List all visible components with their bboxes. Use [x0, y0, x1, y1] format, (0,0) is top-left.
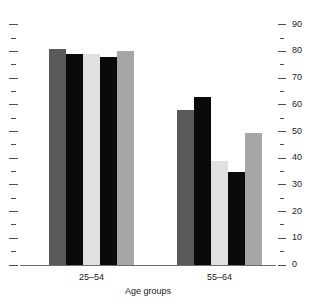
right-tick-minor-25 [280, 198, 284, 199]
bar-5564-series-2 [194, 97, 211, 265]
left-tick-minor-65 [11, 91, 16, 92]
y-tick-label-20: 20 [292, 207, 302, 216]
left-tick-minor-75 [11, 64, 16, 65]
right-tick-major-50 [278, 131, 286, 132]
right-tick-major-40 [278, 158, 286, 159]
right-tick-minor-85 [280, 38, 284, 39]
right-tick-major-20 [278, 211, 286, 212]
right-tick-major-10 [278, 238, 286, 239]
right-tick-minor-45 [280, 144, 284, 145]
left-tick-minor-45 [11, 144, 16, 145]
y-tick-label-80: 80 [292, 46, 302, 55]
right-tick-minor-15 [280, 224, 284, 225]
left-tick-major-20 [9, 211, 18, 212]
right-tick-major-0 [278, 265, 286, 266]
y-tick-label-30: 30 [292, 180, 302, 189]
right-tick-minor-5 [280, 251, 284, 252]
y-tick-label-60: 60 [292, 100, 302, 109]
right-tick-minor-65 [280, 91, 284, 92]
y-tick-label-70: 70 [292, 73, 302, 82]
right-tick-minor-35 [280, 171, 284, 172]
left-tick-minor-15 [11, 224, 16, 225]
left-tick-major-60 [9, 104, 18, 105]
bar-2554-series-5 [117, 51, 134, 265]
y-tick-label-0: 0 [292, 260, 297, 269]
left-tick-major-40 [9, 158, 18, 159]
left-tick-major-10 [9, 238, 18, 239]
category-label-1: 25–54 [79, 272, 104, 282]
right-tick-major-80 [278, 51, 286, 52]
right-tick-minor-75 [280, 64, 284, 65]
bar-5564-series-1 [177, 110, 194, 265]
left-tick-minor-5 [11, 251, 16, 252]
left-tick-minor-25 [11, 198, 16, 199]
right-tick-major-30 [278, 184, 286, 185]
left-tick-minor-55 [11, 118, 16, 119]
left-tick-major-30 [9, 184, 18, 185]
right-tick-minor-55 [280, 118, 284, 119]
bar-5564-series-4 [228, 172, 245, 265]
plot-area: 0102030405060708090 25–5455–64 Age group… [0, 0, 321, 304]
left-tick-major-0 [9, 265, 18, 266]
left-tick-minor-35 [11, 171, 16, 172]
bar-chart: 0102030405060708090 25–5455–64 Age group… [0, 0, 321, 304]
y-tick-label-50: 50 [292, 127, 302, 136]
left-tick-major-50 [9, 131, 18, 132]
y-tick-label-10: 10 [292, 233, 302, 242]
y-tick-label-40: 40 [292, 153, 302, 162]
right-tick-major-90 [278, 24, 286, 25]
bar-2554-series-3 [83, 54, 100, 265]
category-label-2: 55–64 [207, 272, 232, 282]
x-axis-baseline [20, 265, 276, 266]
right-tick-major-60 [278, 104, 286, 105]
left-tick-major-90 [9, 24, 18, 25]
left-tick-major-70 [9, 78, 18, 79]
x-axis-title: Age groups [125, 286, 171, 296]
bar-5564-series-3 [211, 161, 228, 265]
y-tick-label-90: 90 [292, 20, 302, 29]
right-tick-major-70 [278, 78, 286, 79]
bar-2554-series-1 [49, 49, 66, 265]
left-tick-major-80 [9, 51, 18, 52]
left-tick-minor-85 [11, 38, 16, 39]
bar-2554-series-2 [66, 54, 83, 265]
bar-2554-series-4 [100, 57, 117, 265]
bar-5564-series-5 [245, 133, 262, 265]
